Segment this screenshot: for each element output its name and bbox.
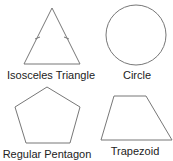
isosceles-triangle-label: Isosceles Triangle — [7, 69, 95, 81]
regular-pentagon-label: Regular Pentagon — [3, 148, 92, 160]
regular-pentagon-shape — [15, 87, 80, 143]
circle-label: Circle — [123, 69, 151, 81]
circle-shape — [106, 5, 166, 65]
trapezoid-label: Trapezoid — [111, 145, 160, 157]
isosceles-triangle-shape — [24, 8, 80, 64]
trapezoid-shape — [101, 96, 172, 140]
